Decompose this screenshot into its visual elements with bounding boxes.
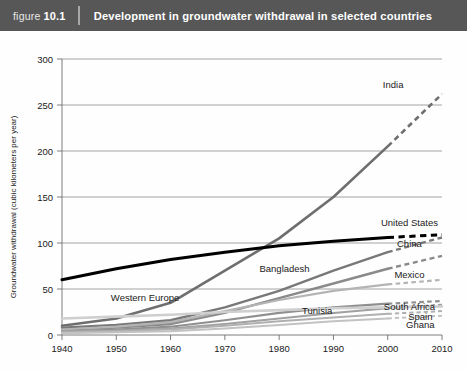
y-tick-label: 250 (37, 100, 53, 111)
figure-container: figure10.1 Development in groundwater wi… (0, 0, 467, 372)
y-tick-labels: 050100150200250300 (37, 54, 53, 341)
series-label-bangladesh: Bangladesh (259, 263, 309, 274)
x-tick-label: 1970 (214, 343, 235, 354)
series-label-mexico: Mexico (394, 269, 424, 280)
figure-header-bar: figure10.1 Development in groundwater wi… (0, 0, 467, 31)
series-label-china: China (397, 238, 423, 249)
figure-word: figure (13, 10, 40, 22)
header-divider (78, 6, 80, 25)
y-tick-label: 150 (37, 192, 53, 203)
y-tick-label: 100 (37, 238, 53, 249)
x-tick-label: 1960 (160, 343, 181, 354)
series-line-united-states (62, 237, 388, 279)
series-label-western-europe: Western Europe (111, 292, 179, 303)
figure-title: Development in groundwater withdrawal in… (94, 10, 432, 22)
figure-number-label: figure10.1 (13, 10, 66, 22)
chart-area: 050100150200250300 194019501960197019801… (0, 31, 467, 372)
x-tick-label: 1950 (106, 343, 127, 354)
line-chart: 050100150200250300 194019501960197019801… (0, 31, 467, 372)
series-label-india: India (383, 79, 404, 90)
series-label-united-states: United States (381, 217, 438, 228)
x-tick-label: 1940 (51, 343, 72, 354)
y-tick-label: 0 (48, 330, 53, 341)
series-projection-bangladesh (388, 256, 442, 269)
x-tick-label: 1990 (323, 343, 344, 354)
x-tick-label: 2010 (431, 343, 452, 354)
y-axis-title: Groundwater withdrawal (cubic kilometers… (9, 115, 18, 298)
series-label-ghana: Ghana (406, 319, 435, 330)
series-projection-mexico (388, 280, 442, 285)
x-tick-labels: 19401950196019701980199020002010 (51, 343, 452, 354)
x-tick-label: 2000 (377, 343, 398, 354)
series-projection-india (388, 94, 442, 146)
x-tick-label: 1980 (269, 343, 290, 354)
figure-number: 10.1 (43, 10, 65, 22)
y-tick-label: 200 (37, 146, 53, 157)
y-tick-label: 300 (37, 54, 53, 65)
series-label-tunisia: Tunisia (302, 305, 333, 316)
y-tick-label: 50 (42, 284, 53, 295)
